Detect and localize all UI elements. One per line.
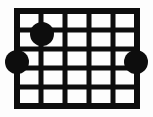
finger-dot-right	[124, 50, 148, 74]
fret-line	[14, 85, 140, 90]
fretboard-border-horizontal	[14, 103, 140, 109]
fretboard-border-horizontal	[14, 8, 140, 14]
string-line	[111, 8, 116, 109]
fret-line	[14, 66, 140, 71]
finger-dot-left	[5, 50, 29, 74]
finger-dot-top	[30, 22, 54, 46]
string-line	[63, 8, 68, 109]
fretboard-grid-svg	[0, 0, 153, 117]
guitar-chord-diagram	[0, 0, 153, 117]
fret-line	[14, 47, 140, 52]
string-line	[87, 8, 92, 109]
